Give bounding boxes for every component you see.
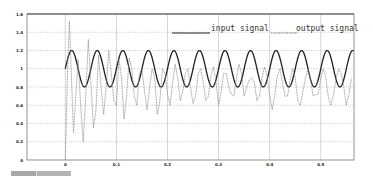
x-tick-label: 0.2: [164, 162, 171, 167]
y-axis-ticks: 00.20.40.60.811.21.41.6: [16, 12, 23, 163]
x-tick-label: 0: [64, 162, 67, 167]
legend-output-label: output signal: [296, 24, 359, 33]
status-segment-1: [11, 171, 36, 176]
y-tick-label: 0.4: [16, 121, 23, 126]
x-tick-label: 0.4: [266, 162, 273, 167]
x-tick-label: 0.1: [113, 162, 120, 167]
status-bar: [11, 171, 71, 176]
y-tick-label: 1.6: [16, 12, 23, 17]
y-tick-label: 1.2: [16, 48, 23, 53]
x-axis-ticks: 00.10.20.30.40.5: [64, 162, 325, 167]
y-tick-label: 1: [20, 66, 23, 71]
y-tick-label: 0.2: [16, 139, 23, 144]
y-tick-label: 1.4: [16, 30, 23, 35]
y-tick-label: 0.6: [16, 103, 23, 108]
legend-input-label: input signal: [211, 24, 269, 33]
y-tick-label: 0: [20, 158, 23, 163]
y-tick-label: 0.8: [16, 85, 23, 90]
line-chart: 00.20.40.60.811.21.41.6 00.10.20.30.40.5…: [0, 0, 373, 185]
x-tick-label: 0.5: [317, 162, 324, 167]
x-tick-label: 0.3: [215, 162, 222, 167]
status-segment-2: [37, 171, 71, 176]
